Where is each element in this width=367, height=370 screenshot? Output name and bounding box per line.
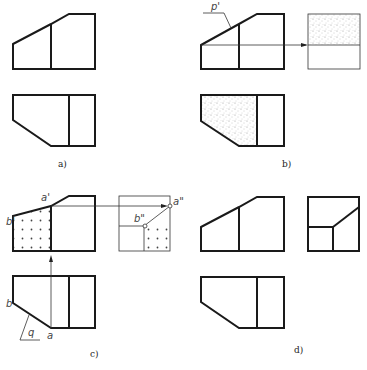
side-view: [308, 197, 359, 251]
front-view: p': [201, 1, 308, 69]
panel-c: a' b' a" b" b a q c): [6, 192, 184, 359]
side-view: a" b": [119, 196, 184, 251]
arrow-head: [49, 255, 53, 262]
panel-d: d): [201, 197, 359, 355]
caption-b: b): [282, 159, 291, 169]
panel-b: p' b): [201, 1, 360, 169]
caption-a: a): [58, 159, 67, 169]
label-b-double-prime: b": [134, 213, 145, 224]
arrow-head: [301, 43, 308, 47]
technical-drawing: a) p' b) a': [0, 0, 367, 370]
label-q: q: [28, 327, 34, 338]
caption-c: c): [90, 349, 99, 359]
label-a-prime: a': [41, 192, 50, 203]
front-view: [13, 14, 95, 69]
label-p-prime: p': [210, 1, 220, 12]
panel-a: a): [13, 14, 95, 169]
top-view: b a q: [6, 255, 95, 341]
label-a-double-prime: a": [173, 196, 184, 207]
label-b-prime: b': [6, 216, 15, 227]
side-view: [308, 14, 360, 69]
arrow-head: [161, 204, 168, 208]
top-view: [201, 95, 284, 146]
caption-d: d): [294, 345, 303, 355]
front-view: [201, 197, 284, 251]
top-view: [13, 95, 95, 146]
label-a: a: [47, 330, 53, 341]
label-b: b: [6, 298, 12, 309]
top-view: [201, 277, 284, 328]
